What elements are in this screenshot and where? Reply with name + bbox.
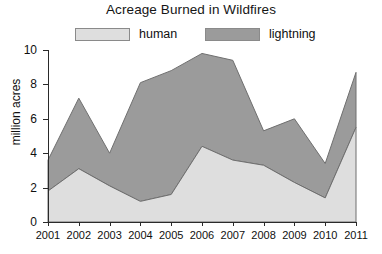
x-axis-tick-label: 2011 bbox=[339, 229, 373, 241]
x-axis-tick-label: 2005 bbox=[154, 229, 188, 241]
y-axis-tick-label: 6 bbox=[17, 112, 37, 126]
y-axis-tick-label: 8 bbox=[17, 77, 37, 91]
x-axis-tick-label: 2002 bbox=[62, 229, 96, 241]
x-axis-tick-label: 2001 bbox=[31, 229, 65, 241]
x-axis-tick-label: 2006 bbox=[185, 229, 219, 241]
x-axis-tick-label: 2009 bbox=[277, 229, 311, 241]
wildfire-acreage-chart: Acreage Burned in Wildfires human lightn… bbox=[0, 0, 382, 254]
x-axis-tick-label: 2003 bbox=[93, 229, 127, 241]
x-axis-tick-label: 2010 bbox=[308, 229, 342, 241]
area-series-group bbox=[48, 53, 356, 222]
plot-area bbox=[0, 0, 382, 254]
y-axis-tick-label: 4 bbox=[17, 146, 37, 160]
y-axis-tick-label: 10 bbox=[17, 43, 37, 57]
x-axis-tick-label: 2008 bbox=[247, 229, 281, 241]
y-axis-tick-label: 0 bbox=[17, 215, 37, 229]
x-axis-tick-label: 2004 bbox=[123, 229, 157, 241]
x-axis-tick-label: 2007 bbox=[216, 229, 250, 241]
y-axis-tick-label: 2 bbox=[17, 181, 37, 195]
